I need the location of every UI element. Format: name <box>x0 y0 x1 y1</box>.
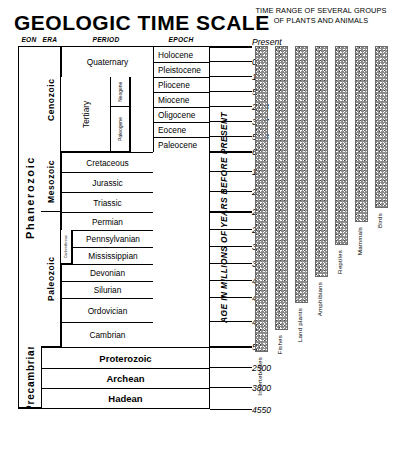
tick-144 <box>210 171 252 172</box>
geologic-time-scale-figure: GEOLOGIC TIME SCALE TIME RANGE OF SEVERA… <box>0 0 395 456</box>
period-proterozoic: Proterozoic <box>41 347 209 368</box>
period-silurian: Silurian <box>61 281 153 298</box>
epoch-miocene: Miocene <box>153 92 209 107</box>
range-label-reptiles: Reptiles <box>336 250 343 274</box>
tick-354 <box>210 263 252 264</box>
tick-present <box>210 46 252 48</box>
range-bar-amphibians <box>315 46 328 277</box>
eon-precambrian: Precambrian <box>19 347 41 408</box>
tick-33.7 <box>210 121 252 122</box>
period-tertiary: Tertiary <box>61 77 111 152</box>
epoch-eocene: Eocene <box>153 122 209 137</box>
tick-4550 <box>210 409 252 410</box>
epoch-oligocene: Oligocene <box>153 107 209 122</box>
tick-290 <box>210 229 252 230</box>
tick-323 <box>210 246 252 247</box>
tick-2500 <box>210 367 252 368</box>
tick-65 <box>210 151 252 153</box>
tick-5.3 <box>210 91 252 92</box>
column-header-epoch: EPOCH <box>152 36 210 43</box>
organism-panel-heading-line2: OF PLANTS AND ANIMALS <box>248 16 394 26</box>
epoch-pleistocene: Pleistocene <box>153 62 209 77</box>
range-bar-invertebrates <box>255 46 268 352</box>
range-bar-land-plants <box>295 46 308 303</box>
period-permian: Permian <box>61 212 153 230</box>
epoch-paleocene: Paleocene <box>153 137 209 152</box>
period-archean: Archean <box>41 368 209 388</box>
era-mesozoic: Mesozoic <box>41 152 61 212</box>
range-label-fishes: Fishes <box>276 335 283 354</box>
organism-panel-heading-line1: TIME RANGE OF SEVERAL GROUPS <box>248 6 394 16</box>
age-axis-label: AGE IN MILLIONS OF YEARS BEFORE PRESENT <box>219 112 229 323</box>
period-cambrian: Cambrian <box>61 322 153 347</box>
tick-443 <box>210 297 252 298</box>
range-bar-fishes <box>275 46 288 330</box>
period-pennsylvanian: Pennsylvanian <box>72 230 153 247</box>
age-label-4550: 4550 <box>252 405 271 415</box>
range-label-land-plants: Land plants <box>296 308 303 342</box>
period-triassic: Triassic <box>61 192 153 212</box>
column-header-eon: EON <box>18 36 40 43</box>
tick-206 <box>210 191 252 192</box>
period-hadean: Hadean <box>41 388 209 408</box>
eon-phanerozoic: Phanerozoic <box>19 47 41 347</box>
era-cenozoic: Cenozoic <box>41 47 61 152</box>
organism-panel-heading: TIME RANGE OF SEVERAL GROUPS OF PLANTS A… <box>248 6 394 26</box>
period-mississippian: Mississippian <box>72 247 153 264</box>
period-quaternary: Quaternary <box>61 47 153 77</box>
range-bar-birds <box>375 46 388 208</box>
era-paleozoic: Paleozoic <box>41 212 61 347</box>
tick-417 <box>210 280 252 281</box>
tertiary-spacer <box>130 77 153 152</box>
column-header-era: ERA <box>40 36 60 43</box>
subperiod-paleogene: Paleogene <box>111 107 130 152</box>
period-jurassic: Jurassic <box>61 172 153 192</box>
tick-54.8 <box>210 136 252 137</box>
range-label-amphibians: Amphibians <box>316 282 323 316</box>
column-header-period: PERIOD <box>60 36 152 43</box>
period-cretaceous: Cretaceous <box>61 152 153 172</box>
range-bar-reptiles <box>335 46 348 245</box>
epoch-holocene: Holocene <box>153 47 209 62</box>
time-scale-table: Phanerozoic Precambrian Cenozoic Mesozoi… <box>18 46 210 409</box>
range-label-invertebrates: Invertebrates <box>256 357 263 396</box>
period-devonian: Devonian <box>61 264 153 281</box>
range-label-birds: Birds <box>376 213 383 228</box>
tick-0.01 <box>210 61 252 62</box>
tick-490 <box>210 321 252 322</box>
tick-23.8 <box>210 106 252 107</box>
range-label-mammals: Mammals <box>356 227 363 255</box>
tick-1.8 <box>210 76 252 77</box>
tick-3800 <box>210 387 252 388</box>
period-ordovician: Ordovician <box>61 298 153 322</box>
subperiod-neogene: Neogene <box>111 77 130 107</box>
epoch-pliocene: Pliocene <box>153 77 209 92</box>
tick-248 <box>210 211 252 213</box>
tick-543 <box>210 346 252 348</box>
subperiod-carboniferous: Carboniferous <box>61 230 72 264</box>
range-bar-mammals <box>355 46 368 222</box>
page-title: GEOLOGIC TIME SCALE <box>14 11 270 35</box>
